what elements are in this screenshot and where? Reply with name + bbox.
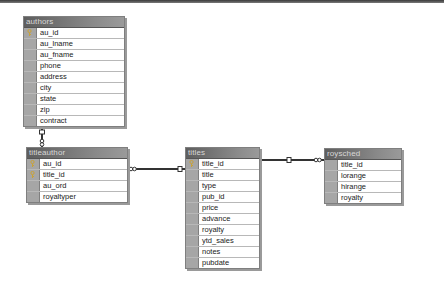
column-row[interactable]: city bbox=[24, 83, 124, 94]
column-name: title bbox=[199, 170, 214, 180]
row-selector[interactable] bbox=[186, 192, 199, 202]
row-selector[interactable] bbox=[186, 236, 199, 246]
row-selector[interactable] bbox=[24, 39, 37, 49]
row-selector[interactable] bbox=[325, 193, 338, 203]
row-selector[interactable] bbox=[325, 182, 338, 192]
row-selector[interactable] bbox=[27, 159, 40, 169]
column-row[interactable]: au_fname bbox=[24, 50, 124, 61]
column-row[interactable]: pubdate bbox=[186, 258, 259, 268]
column-row[interactable]: title_id bbox=[325, 160, 401, 171]
infinity-end-icon bbox=[40, 139, 44, 146]
relationship-authors-titleauthor[interactable] bbox=[40, 129, 45, 147]
column-name: lorange bbox=[338, 171, 366, 181]
column-name: au_id bbox=[37, 28, 58, 38]
infinity-end-icon bbox=[314, 158, 321, 162]
column-row[interactable]: title_id bbox=[27, 170, 127, 181]
table-authors[interactable]: authors au_idau_lnameau_fnamephoneaddres… bbox=[23, 16, 125, 127]
row-selector[interactable] bbox=[186, 247, 199, 257]
row-selector[interactable] bbox=[186, 181, 199, 191]
column-row[interactable]: royaltyper bbox=[27, 192, 127, 202]
column-name: royaltyper bbox=[40, 192, 76, 202]
row-selector[interactable] bbox=[24, 50, 37, 60]
column-name: pubdate bbox=[199, 258, 229, 268]
table-title[interactable]: titleauthor bbox=[27, 148, 127, 159]
column-name: state bbox=[37, 94, 56, 104]
row-selector[interactable] bbox=[27, 192, 40, 202]
column-row[interactable]: royalty bbox=[325, 193, 401, 203]
column-name: ytd_sales bbox=[199, 236, 234, 246]
row-selector[interactable] bbox=[325, 171, 338, 181]
column-name: title_id bbox=[40, 170, 65, 180]
column-row[interactable]: zip bbox=[24, 105, 124, 116]
column-row[interactable]: au_id bbox=[24, 28, 124, 39]
column-name: address bbox=[37, 72, 67, 82]
column-name: au_ord bbox=[40, 181, 66, 191]
column-row[interactable]: lorange bbox=[325, 171, 401, 182]
table-roysched[interactable]: roysched title_idlorangehirangeroyalty bbox=[324, 148, 402, 204]
column-row[interactable]: title bbox=[186, 170, 259, 181]
column-name: city bbox=[37, 83, 51, 93]
row-selector[interactable] bbox=[186, 225, 199, 235]
column-name: type bbox=[199, 181, 216, 191]
column-row[interactable]: au_ord bbox=[27, 181, 127, 192]
column-name: zip bbox=[37, 105, 50, 115]
row-selector[interactable] bbox=[24, 72, 37, 82]
infinity-end-icon bbox=[129, 167, 136, 171]
row-selector[interactable] bbox=[24, 83, 37, 93]
column-row[interactable]: royalty bbox=[186, 225, 259, 236]
row-selector[interactable] bbox=[186, 214, 199, 224]
table-titleauthor[interactable]: titleauthor au_idtitle_idau_ordroyaltype… bbox=[26, 147, 128, 203]
row-selector[interactable] bbox=[24, 61, 37, 71]
column-row[interactable]: title_id bbox=[186, 159, 259, 170]
row-selector[interactable] bbox=[27, 170, 40, 180]
row-selector[interactable] bbox=[27, 181, 40, 191]
column-name: au_fname bbox=[37, 50, 73, 60]
column-row[interactable]: au_id bbox=[27, 159, 127, 170]
key-end-icon bbox=[287, 158, 291, 163]
row-selector[interactable] bbox=[24, 94, 37, 104]
table-titles[interactable]: titles title_idtitletypepub_idpriceadvan… bbox=[185, 147, 260, 269]
row-selector[interactable] bbox=[186, 203, 199, 213]
primary-key-icon bbox=[189, 160, 194, 167]
row-selector[interactable] bbox=[24, 116, 37, 126]
column-name: au_lname bbox=[37, 39, 73, 49]
column-name: contract bbox=[37, 116, 67, 126]
column-row[interactable]: type bbox=[186, 181, 259, 192]
column-row[interactable]: hirange bbox=[325, 182, 401, 193]
row-selector[interactable] bbox=[186, 170, 199, 180]
key-end-icon bbox=[40, 130, 45, 134]
row-selector[interactable] bbox=[186, 159, 199, 169]
column-name: royalty bbox=[338, 193, 363, 203]
row-selector[interactable] bbox=[186, 258, 199, 268]
primary-key-icon bbox=[30, 160, 35, 167]
relationship-titles-roysched[interactable] bbox=[259, 158, 324, 163]
key-end-icon bbox=[178, 167, 182, 172]
column-row[interactable]: state bbox=[24, 94, 124, 105]
primary-key-icon bbox=[27, 29, 32, 36]
column-name: advance bbox=[199, 214, 230, 224]
table-title[interactable]: authors bbox=[24, 17, 124, 28]
primary-key-icon bbox=[30, 171, 35, 178]
relationship-titleauthor-titles[interactable] bbox=[128, 167, 185, 172]
column-name: title_id bbox=[199, 159, 224, 169]
table-title[interactable]: roysched bbox=[325, 149, 401, 160]
column-name: phone bbox=[37, 61, 61, 71]
column-name: royalty bbox=[199, 225, 224, 235]
column-name: au_id bbox=[40, 159, 61, 169]
row-selector[interactable] bbox=[24, 28, 37, 38]
column-row[interactable]: advance bbox=[186, 214, 259, 225]
column-row[interactable]: address bbox=[24, 72, 124, 83]
column-row[interactable]: au_lname bbox=[24, 39, 124, 50]
column-row[interactable]: phone bbox=[24, 61, 124, 72]
column-row[interactable]: pub_id bbox=[186, 192, 259, 203]
column-row[interactable]: ytd_sales bbox=[186, 236, 259, 247]
row-selector[interactable] bbox=[24, 105, 37, 115]
column-row[interactable]: notes bbox=[186, 247, 259, 258]
table-title[interactable]: titles bbox=[186, 148, 259, 159]
column-name: pub_id bbox=[199, 192, 225, 202]
column-name: price bbox=[199, 203, 218, 213]
column-name: hirange bbox=[338, 182, 366, 192]
column-row[interactable]: price bbox=[186, 203, 259, 214]
row-selector[interactable] bbox=[325, 160, 338, 170]
column-row[interactable]: contract bbox=[24, 116, 124, 126]
